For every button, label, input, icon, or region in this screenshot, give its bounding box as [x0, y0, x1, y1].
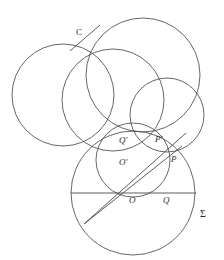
point-label-p-prime: P'	[155, 135, 162, 144]
point-label-q: Q	[163, 196, 170, 205]
large-left-circle	[12, 44, 114, 146]
point-label-p: P	[171, 155, 177, 164]
figure-label-sigma: Σ	[200, 209, 206, 219]
point-label-o-prime: O'	[119, 158, 127, 167]
c-ray-line	[70, 25, 100, 51]
point-label-o: O	[129, 196, 136, 205]
top-right-circle	[86, 18, 200, 132]
middle-circle-through-c	[62, 49, 164, 151]
point-label-q-prime: Q'	[119, 136, 127, 145]
geometry-figure: C Q' P' O' P O Q Σ	[0, 0, 224, 260]
lower-chord-line	[84, 146, 182, 224]
point-label-c: C	[76, 28, 82, 37]
figure-canvas	[0, 0, 224, 260]
